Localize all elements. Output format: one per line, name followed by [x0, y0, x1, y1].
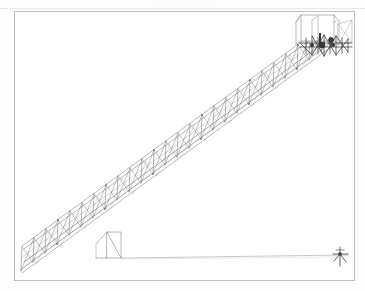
- scanned-page: · · · · · · · · · · · · · · · · · ·: [0, 0, 365, 291]
- crane-drawing-svg: [0, 0, 365, 291]
- lattice-boom: [20, 18, 336, 273]
- load-hook-anchor: [333, 247, 348, 266]
- anchor-node: [338, 252, 342, 256]
- boom-diagonals-forward: [22, 28, 331, 262]
- drawing-canvas: [0, 0, 365, 291]
- ground-load-line: [121, 255, 348, 259]
- boom-tip-sheave: [329, 38, 334, 43]
- boom-base-pedestal: [96, 232, 121, 258]
